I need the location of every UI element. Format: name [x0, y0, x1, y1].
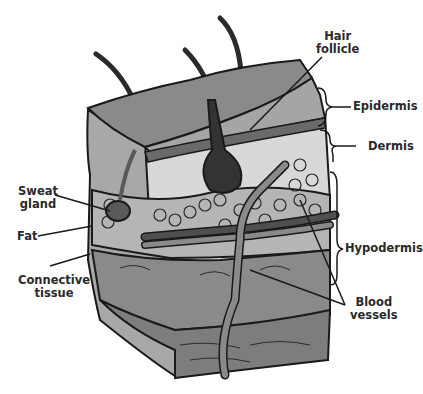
skin-diagram: [0, 0, 423, 394]
label-sweat-gland: Sweat gland: [18, 185, 58, 211]
label-dermis: Dermis: [368, 140, 414, 153]
fat-leader: [38, 226, 92, 236]
hair-left: [96, 54, 134, 101]
connective-leader: [50, 254, 90, 266]
label-hair-follicle: Hair follicle: [316, 30, 359, 56]
label-connective-tissue: Connective tissue: [18, 274, 90, 300]
label-hypodermis: Hypodermis: [345, 242, 423, 255]
hypodermis-brace: [330, 172, 343, 285]
label-blood-vessels: Blood vessels: [350, 296, 398, 322]
hair-right: [220, 18, 241, 72]
label-epidermis: Epidermis: [353, 100, 418, 113]
label-fat: Fat: [17, 230, 37, 243]
